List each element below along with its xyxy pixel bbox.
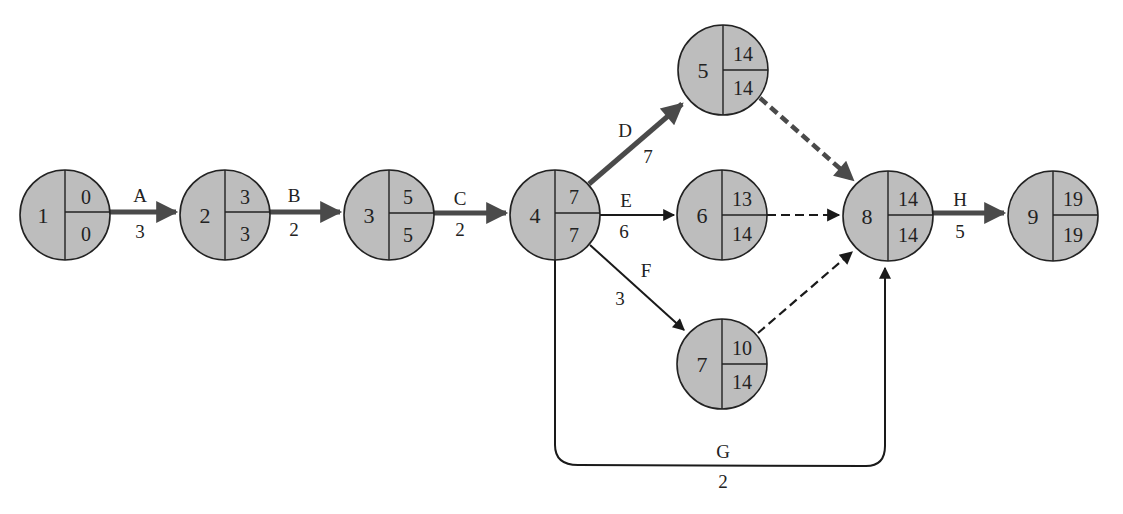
node-id: 8 (862, 204, 873, 229)
activity-label: F (641, 260, 652, 281)
node-id: 2 (200, 203, 211, 228)
edge-f: F 3 (590, 245, 684, 330)
duration-label: 3 (135, 221, 145, 242)
node-latest: 14 (733, 77, 753, 99)
duration-label: 2 (718, 471, 728, 492)
node-2: 2 3 3 (180, 170, 270, 260)
node-id: 5 (698, 58, 709, 83)
duration-label: 2 (455, 219, 465, 240)
node-6: 6 13 14 (677, 170, 767, 260)
node-earliest: 10 (732, 337, 752, 359)
activity-label: A (133, 185, 147, 206)
activity-label: D (618, 120, 632, 141)
activity-label: C (454, 188, 467, 209)
duration-label: 6 (619, 221, 629, 242)
node-9: 9 19 19 (1008, 171, 1098, 261)
node-3: 3 5 5 (344, 170, 434, 260)
edge-h: H 5 (933, 189, 1004, 242)
node-latest: 14 (732, 371, 752, 393)
cpm-network-diagram: A 3 B 2 C 2 D 7 E 6 F 3 G 2 H 5 (0, 0, 1123, 514)
node-1: 1 0 0 (20, 170, 110, 260)
node-7: 7 10 14 (677, 319, 767, 409)
duration-label: 3 (615, 288, 625, 309)
dummy-edge-5-8 (760, 98, 853, 180)
node-earliest: 14 (898, 188, 918, 210)
arrow-icon (589, 104, 682, 184)
dummy-edge-7-8 (758, 252, 852, 333)
edge-d: D 7 (589, 104, 682, 184)
node-earliest: 3 (240, 186, 250, 208)
node-earliest: 7 (569, 186, 579, 208)
node-earliest: 14 (733, 43, 753, 65)
arrow-icon (590, 245, 684, 330)
activity-label: B (288, 185, 301, 206)
edge-c: C 2 (434, 188, 506, 240)
node-5: 5 14 14 (678, 25, 768, 115)
node-4: 4 7 7 (510, 170, 600, 260)
node-id: 9 (1028, 204, 1039, 229)
node-earliest: 19 (1063, 188, 1083, 210)
activity-label: E (620, 190, 632, 211)
node-latest: 14 (732, 223, 752, 245)
node-id: 3 (364, 203, 375, 228)
node-latest: 14 (898, 224, 918, 246)
node-earliest: 13 (732, 188, 752, 210)
activity-label: H (953, 189, 967, 210)
duration-label: 2 (289, 219, 299, 240)
node-latest: 19 (1063, 224, 1083, 246)
node-latest: 3 (240, 223, 250, 245)
node-latest: 0 (81, 223, 91, 245)
node-8: 8 14 14 (843, 171, 933, 261)
node-id: 7 (697, 352, 708, 377)
activity-label: G (716, 441, 730, 462)
node-latest: 7 (569, 224, 579, 246)
duration-label: 5 (955, 221, 965, 242)
edge-a: A 3 (110, 185, 176, 242)
node-latest: 5 (403, 224, 413, 246)
node-earliest: 5 (403, 186, 413, 208)
duration-label: 7 (643, 146, 653, 167)
node-id: 6 (697, 203, 708, 228)
node-id: 1 (38, 203, 49, 228)
node-id: 4 (530, 203, 541, 228)
edge-e: E 6 (600, 190, 674, 242)
edge-b: B 2 (270, 185, 340, 240)
node-earliest: 0 (81, 186, 91, 208)
